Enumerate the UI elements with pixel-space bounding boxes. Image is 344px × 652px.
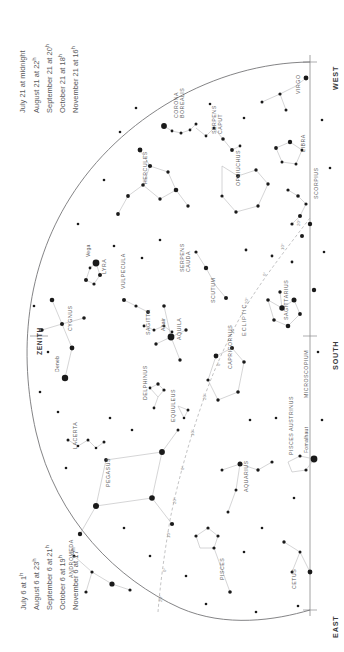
legend-top-line-2: September 21 at 20h	[44, 44, 54, 113]
legend-bottom-line-3: October 6 at 19h	[57, 555, 67, 610]
legend-hour-value: 1	[19, 576, 28, 582]
constellation-label: EQUULEUS	[170, 389, 176, 422]
svg-text:20°: 20°	[296, 219, 301, 226]
star-label: Fomalhaut	[303, 426, 309, 453]
legend-hour-value: 16	[71, 49, 80, 59]
constellation-label: MICROSCOPIUM	[303, 350, 309, 398]
legend-date-text: November 21 at	[71, 60, 80, 113]
star-label: Deneb	[54, 356, 60, 372]
legend-top-line-3: October 21 at 18h	[57, 54, 67, 113]
star-label: Vega	[85, 244, 91, 257]
svg-text:ECLIPTIC: ECLIPTIC	[241, 304, 247, 336]
constellation-label: CAPUT	[217, 113, 223, 134]
svg-text:20°: 20°	[172, 497, 177, 504]
constellation-label: CETUS	[291, 569, 297, 589]
ecliptic-label: ECLIPTIC	[241, 304, 247, 336]
constellation-label: VULPECULA	[120, 253, 126, 289]
constellation-label: SCORPIUS	[313, 168, 319, 200]
named-star-labels: VegaDenebAltairFomalhaut	[54, 244, 309, 453]
legend-date-text: September 6 at	[45, 559, 54, 610]
zenith-label: ZENITH	[36, 327, 43, 355]
constellation-label: LIBRA	[300, 134, 306, 152]
svg-text:0°: 0°	[180, 466, 185, 470]
constellation-label: CAPRICORNUS	[227, 325, 233, 369]
legend-hour-superscript: h	[57, 54, 63, 57]
star-chart: 20° 10° 0° 20° 10° 0° 20° 10° 0° 20° 10°…	[0, 0, 344, 652]
svg-text:0°: 0°	[262, 272, 267, 276]
svg-text:10°: 10°	[166, 531, 171, 538]
legend-hour-superscript: h	[57, 555, 63, 558]
legend-hour-value: 20	[45, 47, 54, 57]
legend-top-line-4: November 21 at 16h	[70, 46, 80, 113]
constellation-label: SAGITTARIUS	[283, 280, 289, 320]
constellation-label: LYRA	[101, 259, 107, 274]
ecliptic-ticks: 20° 10° 0° 20° 10° 0° 20° 10° 0° 20° 10°…	[158, 219, 301, 602]
legend-hour-value: 23	[32, 562, 41, 572]
svg-text:0°: 0°	[162, 568, 167, 572]
constellation-label: CAUDA	[185, 251, 191, 272]
legend-hour-value: 21	[45, 548, 54, 558]
svg-text:10°: 10°	[280, 243, 285, 250]
legend-bottom-line-0: July 6 at 1h	[18, 573, 28, 610]
constellation-label: HERCULES	[142, 151, 148, 184]
constellation-label: PEGASUS	[105, 458, 111, 487]
constellation-label: SCUTUM	[210, 278, 216, 304]
legend-date-text: August 21 at	[32, 71, 41, 113]
constellation-label: BOREALIS	[179, 88, 185, 118]
constellation-label: PISCES	[219, 558, 225, 580]
constellation-label: DELPHINUS	[142, 365, 148, 400]
legend-bottom-line-1: August 6 at 23h	[31, 559, 41, 610]
constellation-label: AQUILA	[176, 318, 182, 340]
legend-hour-superscript: h	[70, 46, 76, 49]
svg-text:20°: 20°	[244, 297, 249, 304]
svg-text:20°: 20°	[202, 393, 207, 400]
legend-hour-value: 19	[58, 558, 67, 568]
svg-text:10°: 10°	[190, 429, 195, 436]
legend-hour-superscript: h	[70, 547, 76, 550]
legend-hour-superscript: h	[18, 573, 24, 576]
legend-hour-value: 17	[71, 550, 80, 560]
legend-hour-superscript: h	[31, 57, 37, 60]
svg-text:20°: 20°	[158, 595, 163, 602]
legend-date-text: October 21 at	[58, 68, 67, 113]
legend-hour-superscript: h	[31, 559, 37, 562]
star-label: Altair	[160, 318, 166, 331]
legend-date-text: October 6 at	[58, 569, 67, 610]
constellation-label: SAGITTA	[145, 309, 151, 335]
legend-hour-value: 22	[32, 60, 41, 70]
legend-top-line-0: July 21 at midnight	[18, 50, 27, 113]
constellation-labels: CORONABOREALISSERPENSCAPUTHERCULESOPHIUC…	[67, 75, 319, 589]
legend-date-text: July 6 at	[19, 582, 28, 610]
constellation-label: AQUARIUS	[243, 461, 249, 493]
constellation-label: LACERTA	[72, 422, 78, 449]
legend-hour-value: 18	[58, 57, 67, 67]
legend-date-text: July 21 at midnight	[18, 50, 27, 113]
legend-date-text: September 21 at	[45, 58, 54, 113]
legend-hour-superscript: h	[44, 44, 50, 47]
svg-text:0°: 0°	[216, 362, 221, 366]
stars	[33, 76, 332, 614]
cardinal-south-label: SOUTH	[331, 341, 340, 370]
legend-date-text: August 6 at	[32, 572, 41, 610]
constellation-label: VIRGO	[295, 75, 301, 94]
constellation-label: PISCES AUSTRINUS	[288, 396, 294, 455]
legend-bottom-line-2: September 6 at 21h	[44, 545, 54, 610]
legend-hour-superscript: h	[44, 545, 50, 548]
constellation-label: OPHIUCHUS	[235, 150, 241, 186]
legend-top-line-1: August 21 at 22h	[31, 57, 41, 113]
constellation-label: CYGNUS	[67, 306, 73, 332]
legend-date-text: November 6 at	[71, 561, 80, 610]
cardinal-west-label: WEST	[331, 66, 340, 90]
cardinal-east-label: EAST	[331, 615, 340, 638]
legend-bottom-line-4: November 6 at 17h	[70, 547, 80, 610]
